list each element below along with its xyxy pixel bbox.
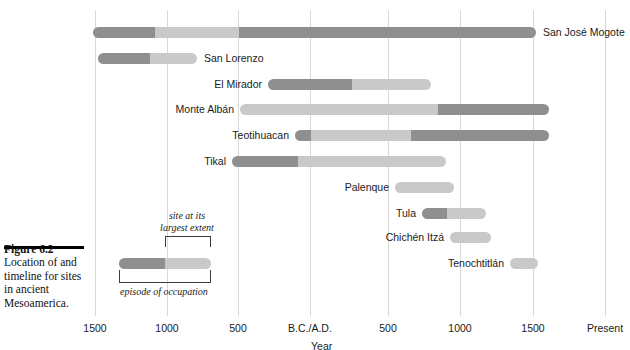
bar-segment-occupation bbox=[93, 27, 155, 38]
bar-segment-largest-extent bbox=[150, 53, 197, 64]
bar-label-tula: Tula bbox=[266, 208, 416, 219]
figure-caption: Figure 6.2 Location of and timeline for … bbox=[4, 243, 88, 310]
key-label-largest-extent-line1: site at its bbox=[169, 210, 205, 221]
x-axis-tick-label: 1000 bbox=[127, 322, 207, 334]
timeline-bar-teotihuacan bbox=[295, 130, 549, 141]
key-bracket-occupation bbox=[119, 270, 211, 283]
timeline-bar-palenque bbox=[395, 182, 454, 193]
bar-label-monte-alb-n: Monte Albán bbox=[84, 104, 234, 115]
bar-segment-largest-extent bbox=[165, 258, 211, 269]
bar-label-el-mirador: El Mirador bbox=[112, 79, 262, 90]
gridline-present-7 bbox=[605, 10, 606, 316]
x-axis-tick-label: 1500 bbox=[55, 322, 135, 334]
figure-number: Figure 6.2 bbox=[4, 243, 88, 256]
x-axis-tick-label: B.C./A.D. bbox=[270, 322, 350, 334]
key-sample-bar bbox=[119, 258, 211, 269]
bar-label-chich-n-itz: Chichén Itzá bbox=[294, 232, 444, 243]
bar-segment-occupation bbox=[438, 104, 549, 115]
bar-segment-largest-extent bbox=[311, 130, 411, 141]
timeline-bar-san-lorenzo bbox=[98, 53, 197, 64]
bar-segment-occupation bbox=[98, 53, 150, 64]
bar-segment-occupation bbox=[119, 258, 165, 269]
bar-segment-largest-extent bbox=[510, 258, 538, 269]
x-axis-tick-label: 1000 bbox=[420, 322, 500, 334]
bar-segment-occupation bbox=[239, 27, 536, 38]
x-axis-tick-label: 500 bbox=[198, 322, 278, 334]
bar-segment-occupation bbox=[422, 208, 447, 219]
bar-segment-occupation bbox=[232, 156, 298, 167]
x-axis-tick-label: Present bbox=[565, 322, 630, 334]
timeline-bar-tenochtitl-n bbox=[510, 258, 538, 269]
x-axis-tick-label: 1500 bbox=[493, 322, 573, 334]
bar-segment-largest-extent bbox=[155, 27, 239, 38]
key-label-largest-extent-line2: largest extent bbox=[160, 222, 214, 233]
timeline-bar-san-jos-mogote bbox=[93, 27, 536, 38]
timeline-bar-chich-n-itz bbox=[450, 232, 491, 243]
bar-segment-largest-extent bbox=[450, 232, 491, 243]
gridline-1500-6 bbox=[533, 10, 534, 316]
figure-caption-text: Location of and timeline for sites in an… bbox=[4, 256, 88, 310]
bar-label-palenque: Palenque bbox=[239, 182, 389, 193]
bar-label-san-jos-mogote: San José Mogote bbox=[543, 27, 625, 38]
bar-label-tenochtitl-n: Tenochtitlán bbox=[354, 258, 504, 269]
timeline-bar-tula bbox=[422, 208, 486, 219]
bar-segment-largest-extent bbox=[447, 208, 486, 219]
bar-segment-largest-extent bbox=[352, 79, 431, 90]
bar-segment-largest-extent bbox=[298, 156, 446, 167]
timeline-bar-el-mirador bbox=[268, 79, 431, 90]
bar-label-san-lorenzo: San Lorenzo bbox=[204, 53, 264, 64]
timeline-bar-monte-alb-n bbox=[240, 104, 549, 115]
gridline-1000-5 bbox=[460, 10, 461, 316]
key-bracket-largest-extent bbox=[165, 236, 211, 247]
bar-label-teotihuacan: Teotihuacan bbox=[139, 130, 289, 141]
figure-timeline: San José MogoteSan LorenzoEl MiradorMont… bbox=[0, 0, 630, 350]
key-label-largest-extent: site at its largest extent bbox=[132, 210, 242, 233]
bar-segment-occupation bbox=[268, 79, 352, 90]
timeline-bar-tikal bbox=[232, 156, 446, 167]
bar-segment-occupation bbox=[295, 130, 311, 141]
bar-segment-largest-extent bbox=[240, 104, 438, 115]
bar-segment-largest-extent bbox=[395, 182, 454, 193]
x-axis-tick-label: 500 bbox=[348, 322, 428, 334]
key-label-occupation: episode of occupation bbox=[104, 286, 224, 298]
bar-segment-occupation bbox=[411, 130, 549, 141]
x-axis-title: Year bbox=[311, 340, 332, 350]
bar-label-tikal: Tikal bbox=[76, 156, 226, 167]
